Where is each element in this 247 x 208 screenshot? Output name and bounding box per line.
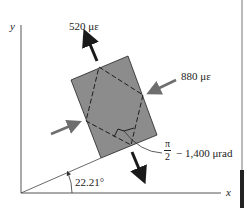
angle-label: 22.21° xyxy=(75,177,104,188)
y-axis-label: y xyxy=(10,21,15,32)
tensile-strain-label: 520 με xyxy=(69,21,99,32)
shear-strain-label: − 1,400 μrad xyxy=(176,148,232,159)
tensile-arrow-up xyxy=(87,37,97,61)
strain-diagram xyxy=(0,0,247,208)
tensile-arrow-down xyxy=(132,152,142,176)
strain-element xyxy=(71,56,157,158)
compressive-arrow-right xyxy=(153,80,176,91)
shear-fraction-denominator: 2 xyxy=(165,151,170,162)
shear-fraction: π 2 xyxy=(164,139,171,162)
shear-fraction-numerator: π xyxy=(164,139,171,151)
page-edge-bar xyxy=(240,170,244,208)
x-axis-label: x xyxy=(226,187,231,198)
compressive-strain-label: 880 με xyxy=(181,71,211,82)
angle-arc xyxy=(68,173,72,193)
compressive-arrow-left xyxy=(51,124,75,134)
